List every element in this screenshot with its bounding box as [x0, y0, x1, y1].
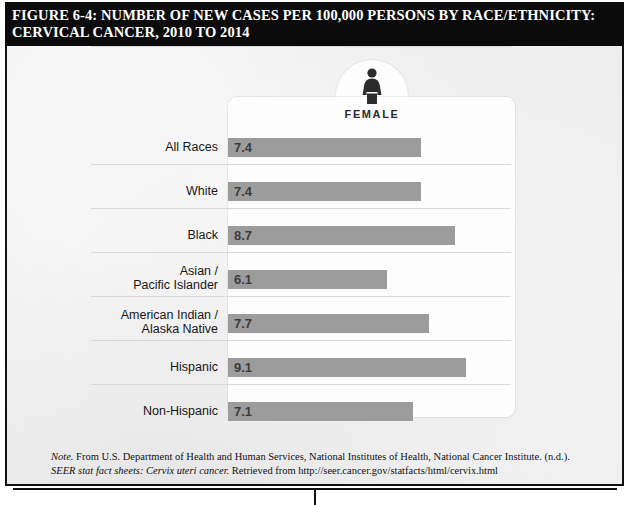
bar-value-hispanic: 9.1 [228, 358, 466, 377]
row-separator [91, 164, 511, 165]
category-label-all-races: All Races [65, 140, 218, 154]
category-label-line2: Pacific Islander [133, 278, 218, 292]
figure-title-line-2: CERVICAL CANCER, 2010 TO 2014 [12, 24, 618, 41]
row-separator [91, 340, 511, 341]
figure-footnote: Note. From U.S. Department of Health and… [51, 450, 591, 477]
category-label-line1: Hispanic [170, 360, 218, 374]
category-label-white: White [65, 184, 218, 198]
row-separator [91, 384, 511, 385]
category-label-line2: Alaska Native [142, 322, 218, 336]
category-label-line1: American Indian / [121, 308, 218, 322]
figure-title-line-1: FIGURE 6-4: NUMBER OF NEW CASES PER 100,… [12, 7, 618, 24]
footnote-note-prefix: Note. [51, 451, 73, 462]
gender-label: FEMALE [316, 108, 428, 120]
chart-area: FEMALE All Races 7.4 White 7.4 Bla [7, 46, 622, 446]
category-label-line1: White [186, 184, 218, 198]
bar-value-non-hispanic: 7.1 [228, 402, 413, 421]
female-figure-icon [359, 68, 385, 106]
category-label-line1: Non-Hispanic [143, 404, 218, 418]
figure-body: FEMALE All Races 7.4 White 7.4 Bla [5, 46, 624, 486]
bar-value-all-races: 7.4 [228, 138, 421, 157]
category-label-american-indian-alaska-native: American Indian / Alaska Native [65, 308, 218, 336]
figure-page: FIGURE 6-4: NUMBER OF NEW CASES PER 100,… [0, 0, 629, 505]
bar-value-black: 8.7 [228, 226, 455, 245]
footnote-italic-title-2: Cervix uteri cancer. [146, 465, 229, 476]
footnote-italic-title-1: SEER stat fact sheets: [51, 465, 143, 476]
footnote-text-part2: Retrieved from http://seer.cancer.gov/st… [229, 465, 498, 476]
bar-value-american-indian-alaska-native: 7.7 [228, 314, 429, 333]
category-label-asian-pacific-islander: Asian / Pacific Islander [65, 264, 218, 292]
bar-value-white: 7.4 [228, 182, 421, 201]
category-label-line1: All Races [165, 140, 218, 154]
row-separator [91, 208, 511, 209]
row-separator [91, 46, 511, 47]
footnote-text-part1: From U.S. Department of Health and Human… [73, 451, 569, 462]
figure-title-bar: FIGURE 6-4: NUMBER OF NEW CASES PER 100,… [5, 2, 624, 46]
row-separator [91, 296, 511, 297]
category-label-hispanic: Hispanic [65, 360, 218, 374]
category-label-line1: Black [187, 228, 218, 242]
bar-value-asian-pacific-islander: 6.1 [228, 270, 387, 289]
category-label-black: Black [65, 228, 218, 242]
page-bottom-divider [314, 490, 316, 505]
row-separator [91, 252, 511, 253]
category-label-non-hispanic: Non-Hispanic [65, 404, 218, 418]
category-label-line1: Asian / [180, 264, 218, 278]
